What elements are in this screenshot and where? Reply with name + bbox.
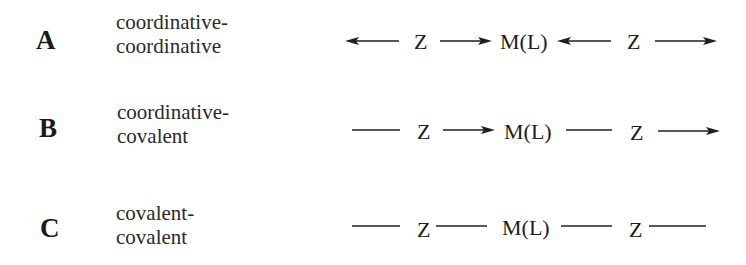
- row-label-c: C: [40, 215, 60, 242]
- scheme-row-c: C covalent- covalent Z M(L) Z: [0, 0, 746, 265]
- single-bond-line: [352, 216, 400, 236]
- single-bond-line: [561, 216, 612, 236]
- ligand-z-left: Z: [417, 218, 430, 242]
- single-bond-line: [436, 216, 487, 236]
- description-line-2: covalent: [116, 225, 194, 249]
- ligand-z-right: Z: [629, 218, 642, 242]
- metal-center: M(L): [502, 216, 550, 240]
- single-bond-line: [649, 216, 706, 236]
- description-line-1: covalent-: [116, 201, 194, 225]
- row-description-c: covalent- covalent: [116, 201, 194, 249]
